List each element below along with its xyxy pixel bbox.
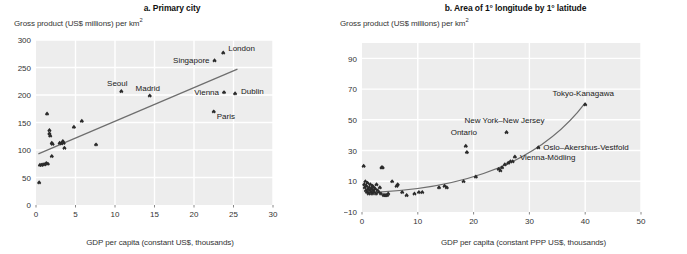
point-label: Vienna-Mödling xyxy=(520,153,575,162)
y-axis-tick-label: 0 xyxy=(27,201,32,210)
chart-panel-a: a. Primary city Gross product (US$ milli… xyxy=(0,0,344,254)
point-label: Madrid xyxy=(136,84,160,93)
x-axis-tick-label: 20 xyxy=(190,210,199,219)
chart-panel-b: b. Area of 1° longitude by 1° latitude G… xyxy=(344,0,687,254)
panel-b-x-axis-title: GDP per capita (constant PPP US$, thousa… xyxy=(352,238,687,247)
point-label: Singapore xyxy=(173,56,210,65)
x-axis-tick-label: 30 xyxy=(269,210,278,219)
y-axis-tick-label: 300 xyxy=(18,36,32,45)
x-axis-tick-label: 10 xyxy=(111,210,120,219)
y-axis-tick-label: 100 xyxy=(18,146,32,155)
x-axis-tick-label: 0 xyxy=(360,217,365,226)
point-label: Seoul xyxy=(107,79,128,88)
panel-a-plot: 050100150200250300051015202530SeoulMadri… xyxy=(0,0,344,254)
plot-background xyxy=(362,43,641,212)
x-axis-tick-label: 10 xyxy=(413,217,422,226)
y-axis-tick-label: 30 xyxy=(348,147,357,156)
y-axis-tick-label: 70 xyxy=(348,85,357,94)
x-axis-tick-label: 20 xyxy=(469,217,478,226)
x-axis-tick-label: 25 xyxy=(229,210,238,219)
y-axis-tick-label: 10 xyxy=(348,177,357,186)
x-axis-tick-label: 40 xyxy=(581,217,590,226)
x-axis-tick-label: 30 xyxy=(525,217,534,226)
point-label: Ontario xyxy=(451,128,478,137)
y-axis-tick-label: 90 xyxy=(348,55,357,64)
y-axis-tick-label: −10 xyxy=(344,208,358,217)
figure-container: a. Primary city Gross product (US$ milli… xyxy=(0,0,687,254)
x-axis-tick-label: 50 xyxy=(637,217,646,226)
x-axis-tick-label: 0 xyxy=(34,210,39,219)
x-axis-tick-label: 5 xyxy=(73,210,78,219)
point-label: London xyxy=(228,44,255,53)
point-label: Paris xyxy=(217,112,235,121)
point-label: Vienna xyxy=(194,88,219,97)
x-axis-tick-label: 15 xyxy=(150,210,159,219)
point-label: New York–New Jersey xyxy=(464,116,544,125)
point-label: Dublin xyxy=(241,87,264,96)
panel-a-x-axis-title: GDP per capita (constant US$, thousands) xyxy=(0,238,332,247)
y-axis-tick-label: 150 xyxy=(18,119,32,128)
y-axis-tick-label: 50 xyxy=(348,116,357,125)
point-label: Tokyo-Kanagawa xyxy=(553,89,615,98)
point-label: Oslo–Akershus-Vestfold xyxy=(543,143,628,152)
panel-b-plot: −10103050709001020304050Tokyo-KanagawaNe… xyxy=(344,0,687,254)
y-axis-tick-label: 200 xyxy=(18,91,32,100)
y-axis-tick-label: 250 xyxy=(18,64,32,73)
y-axis-tick-label: 50 xyxy=(22,174,31,183)
